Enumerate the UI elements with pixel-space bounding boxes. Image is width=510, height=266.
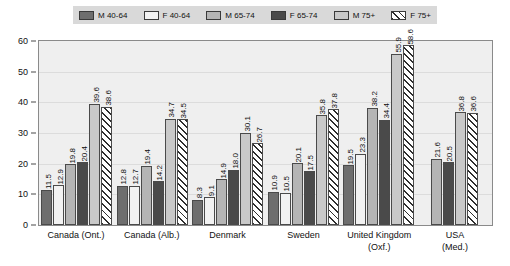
bar-value-label: 17.5 [305,155,316,171]
bar-f75: 26.7 [252,143,263,225]
y-tick-mark [31,194,36,195]
bar-group: 10.910.520.117.535.837.8 [266,41,342,225]
bar-m4064: 8.3 [192,200,203,225]
legend-label: F 40-64 [163,11,191,20]
legend-label: F 65-74 [290,11,318,20]
bar-f4064: 9.1 [204,197,215,225]
legend-label: M 65-74 [225,11,254,20]
bar-f6574: 20.4 [77,162,88,225]
y-tick-label: 30 [18,128,28,138]
x-axis-label: United Kingdom(Oxf.) [341,229,417,265]
bar-value-label: 10.9 [269,175,280,191]
x-axis-label-line: Sweden [265,229,341,241]
bar-f6574: 18.0 [228,170,239,225]
bar-group: 12.812.719.414.234.734.5 [115,41,191,225]
bar-f6574: 17.5 [304,171,315,225]
bar-value-label: 12.7 [130,169,141,185]
y-tick-mark [31,102,36,103]
bar-m75: 30.1 [240,133,251,225]
bar-value-label: 12.9 [54,169,65,185]
x-axis-label-line: United Kingdom [341,229,417,241]
bar-f4064: 23.3 [355,154,366,225]
y-tick-label: 50 [18,67,28,77]
bar-value-label: 20.4 [78,146,89,162]
bar-f75: 58.6 [403,45,414,225]
y-tick-label: 0 [23,220,28,230]
bar-value-label: 14.9 [217,163,228,179]
y-tick-mark [31,163,36,164]
bar-value-label: 39.6 [90,87,101,103]
bar-f6574: 34.4 [379,120,390,225]
bar-f75: 36.6 [467,113,478,225]
bar-f75: 38.6 [101,107,112,225]
bar-value-label: 20.5 [444,146,455,162]
legend-item-f6574: F 65-74 [271,11,318,20]
legend-swatch-m-65-74-icon [206,11,221,20]
bar-value-label: 34.7 [166,102,177,118]
x-axis-label: Canada (Alb.) [114,229,190,265]
legend-item-f4064: F 40-64 [144,11,191,20]
bar-m6574: 19.4 [141,166,152,225]
bar-f6574: 20.5 [443,162,454,225]
bar-value-label: 38.6 [102,90,113,106]
bar-m75: 36.8 [455,112,466,225]
x-axis-label-line: Canada (Alb.) [114,229,190,241]
bar-value-label: 21.6 [432,142,443,158]
bar-f75: 37.8 [328,109,339,225]
bar-m6574: 19.8 [65,164,76,225]
chart-legend: M 40-64F 40-64M 65-74F 65-74M 75+F 75+ [73,6,437,24]
bar-value-label: 18.0 [229,153,240,169]
legend-label: M 75+ [353,11,375,20]
bar-value-label: 23.3 [356,137,367,153]
bar-m4064: 19.5 [343,165,354,225]
bar-value-label: 20.1 [293,147,304,163]
bar-m75: 39.6 [89,104,100,225]
x-axis-label: USA(Med.) [417,229,493,265]
bar-m4064: 10.9 [268,192,279,225]
bar-value-label: 36.8 [456,96,467,112]
bar-group: 21.620.536.836.6 [417,41,493,225]
bar-group: 19.523.338.234.455.958.6 [341,41,417,225]
x-axis-label: Canada (Ont.) [38,229,114,265]
legend-swatch-f-40-64-icon [144,11,159,20]
legend-label: M 40-64 [98,11,127,20]
bar-group: 8.39.114.918.030.126.7 [190,41,266,225]
bar-f4064: 10.5 [280,193,291,225]
bar-value-label: 37.8 [329,93,340,109]
chart-container: M 40-64F 40-64M 65-74F 65-74M 75+F 75+ 0… [0,0,510,266]
bar-value-label: 36.6 [468,96,479,112]
bar-m75: 35.8 [316,115,327,225]
y-tick-mark [31,71,36,72]
bar-value-label: 10.5 [281,176,292,192]
legend-swatch-f-75-plus-icon [391,11,406,20]
legend-swatch-m-40-64-icon [79,11,94,20]
x-axis-label-line: USA [417,229,493,241]
y-axis: 0102030405060 [0,40,36,226]
bar-value-label: 19.4 [142,149,153,165]
y-tick-label: 60 [18,36,28,46]
legend-swatch-m-75-plus-icon [334,11,349,20]
bar-value-label: 55.9 [392,37,403,53]
bar-value-label: 9.1 [205,185,216,196]
x-axis-label-line: Canada (Ont.) [38,229,114,241]
bar-m6574: 38.2 [367,108,378,225]
bar-f4064: 12.7 [129,186,140,225]
legend-label: F 75+ [410,11,431,20]
y-tick-mark [31,133,36,134]
bar-m6574: 20.1 [292,163,303,225]
bar-f6574: 14.2 [153,181,164,225]
y-tick-mark [31,41,36,42]
bar-value-label: 19.5 [344,149,355,165]
y-tick-label: 40 [18,97,28,107]
bar-value-label: 35.8 [317,99,328,115]
bar-value-label: 8.3 [193,187,204,198]
legend-item-m4064: M 40-64 [79,11,127,20]
bar-group: 11.512.919.820.439.638.6 [39,41,115,225]
y-tick-label: 20 [18,159,28,169]
legend-item-m75: M 75+ [334,11,375,20]
x-axis-label: Sweden [265,229,341,265]
x-axis-label-line: Denmark [190,229,266,241]
bar-m6574: 14.9 [216,179,227,225]
bar-value-label: 30.1 [241,116,252,132]
bar-value-label: 11.5 [42,174,53,189]
